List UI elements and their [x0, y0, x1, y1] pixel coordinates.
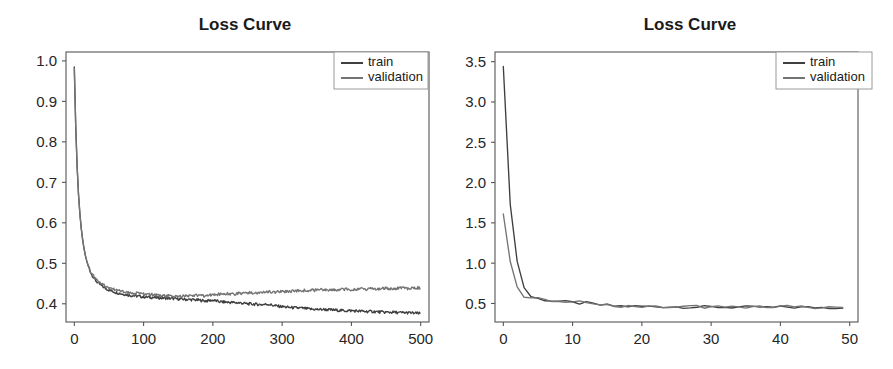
x-tick-label: 0 [70, 330, 78, 347]
page-title-left: Loss Curve [199, 15, 292, 34]
y-tick-label: 2.5 [465, 134, 486, 151]
loss-curve-chart-50: Loss Curve 0.51.01.52.02.53.03.5 0102030… [446, 0, 893, 369]
x-tick-label: 300 [270, 330, 295, 347]
x-tick-label: 100 [131, 330, 156, 347]
x-tick-label: 500 [408, 330, 433, 347]
x-tick-label: 40 [772, 330, 789, 347]
y-tick-label: 3.0 [465, 93, 486, 110]
series-group-right [503, 67, 842, 309]
x-tick-label: 10 [564, 330, 581, 347]
y-tick-label: 3.5 [465, 53, 486, 70]
loss-curve-figure: Loss Curve 0.40.50.60.70.80.91.0 0100200… [0, 0, 893, 369]
series-line-train [74, 67, 420, 314]
legend-label-train: train [810, 54, 835, 69]
y-axis-right: 0.51.01.52.02.53.03.5 [465, 53, 495, 312]
series-line-validation [503, 214, 842, 309]
y-tick-label: 0.7 [36, 174, 57, 191]
y-tick-label: 0.4 [36, 295, 57, 312]
y-tick-label: 0.8 [36, 133, 57, 150]
x-axis-right: 01020304050 [499, 322, 858, 347]
legend-label-validation: validation [810, 69, 865, 84]
x-tick-label: 400 [339, 330, 364, 347]
plot-spine-right [495, 52, 858, 322]
y-tick-label: 2.0 [465, 174, 486, 191]
y-axis-left: 0.40.50.60.70.80.91.0 [36, 52, 66, 312]
x-tick-label: 30 [703, 330, 720, 347]
legend-right[interactable]: trainvalidation [776, 52, 872, 89]
y-tick-label: 1.0 [36, 52, 57, 69]
x-axis-left: 0100200300400500 [70, 322, 433, 347]
x-tick-label: 200 [200, 330, 225, 347]
series-group-left [74, 67, 420, 314]
series-line-validation [74, 68, 420, 297]
legend-left[interactable]: trainvalidation [334, 52, 428, 89]
x-tick-label: 50 [841, 330, 858, 347]
x-tick-label: 20 [634, 330, 651, 347]
y-tick-label: 0.9 [36, 93, 57, 110]
legend-label-train: train [368, 54, 393, 69]
y-tick-label: 0.5 [465, 295, 486, 312]
plot-spine-left [66, 52, 429, 322]
y-tick-label: 1.0 [465, 255, 486, 272]
x-tick-label: 0 [499, 330, 507, 347]
chart-panel-right: Loss Curve 0.51.01.52.02.53.03.5 0102030… [446, 0, 893, 369]
y-tick-label: 1.5 [465, 214, 486, 231]
y-tick-label: 0.6 [36, 214, 57, 231]
chart-panel-left: Loss Curve 0.40.50.60.70.80.91.0 0100200… [0, 0, 446, 369]
page-title-right: Loss Curve [644, 15, 737, 34]
loss-curve-chart-500: Loss Curve 0.40.50.60.70.80.91.0 0100200… [0, 0, 446, 369]
series-line-train [503, 67, 842, 309]
legend-label-validation: validation [368, 69, 423, 84]
y-tick-label: 0.5 [36, 255, 57, 272]
